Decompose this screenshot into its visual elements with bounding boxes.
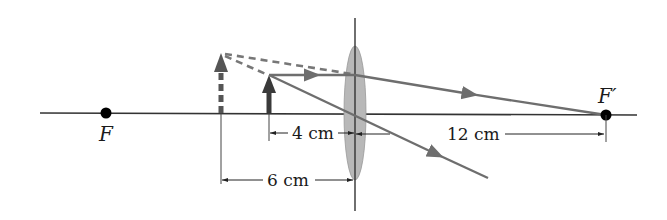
ray-parallel (269, 75, 606, 115)
optical-axis (40, 113, 637, 115)
dimension-label-6cm: 6 cm (267, 170, 309, 190)
virtual-ray-extensions (225, 54, 352, 75)
dimension-label-12cm: 12 cm (447, 124, 500, 144)
virtual-image-arrow (214, 53, 228, 113)
object-arrow (262, 75, 276, 113)
virtual-extension-parallel (225, 54, 352, 74)
dimension-4cm: 4 cm (270, 123, 354, 143)
dimension-6cm: 6 cm (222, 170, 353, 190)
dimension-label-4cm: 4 cm (292, 123, 334, 143)
focal-label-left: F (98, 122, 114, 146)
focal-point-left (101, 108, 112, 119)
lens-diagram: F F′ 4 cm 12 cm 6 cm (0, 0, 667, 220)
focal-label-right: F′ (597, 84, 617, 108)
